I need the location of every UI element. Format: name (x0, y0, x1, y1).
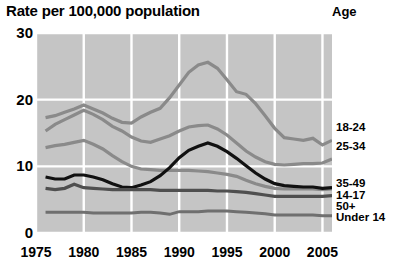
series-label-35-49: 35-49 (336, 178, 365, 190)
x-tick-label: 2005 (297, 245, 347, 259)
series-label-18-24: 18-24 (336, 122, 365, 134)
y-tick-label: 20 (3, 92, 33, 107)
y-tick-label: 10 (3, 158, 33, 173)
legend-title: Age (332, 4, 357, 19)
x-tick-label: 1985 (106, 245, 156, 259)
plot-lines (36, 33, 332, 233)
x-tick-label: 1975 (11, 245, 61, 259)
series-label-under-14: Under 14 (336, 212, 385, 224)
chart-root: Rate per 100,000 population Age 0102030 … (0, 0, 397, 274)
x-tick-label: 1995 (202, 245, 252, 259)
y-tick-label: 30 (3, 25, 33, 40)
series-line-under-14 (46, 211, 332, 216)
series-line-18-24 (46, 62, 332, 145)
plot-area (36, 33, 332, 233)
x-tick-label: 2000 (250, 245, 300, 259)
y-axis-ticks: 0102030 (0, 0, 33, 274)
chart-title: Rate per 100,000 population (6, 2, 200, 19)
x-tick-label: 1980 (59, 245, 109, 259)
series-label-25-34: 25-34 (336, 141, 365, 153)
y-tick-label: 0 (3, 225, 33, 240)
x-tick-label: 1990 (154, 245, 204, 259)
